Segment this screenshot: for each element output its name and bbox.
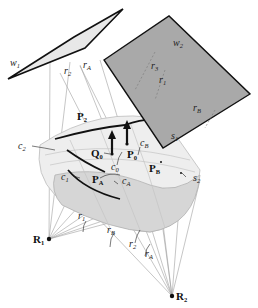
label-P2: P2 [77, 110, 87, 123]
diagram-canvas: w1 r2 rA w2 r3 r1 rB P2 c2 Q0 c0 P0 cB P… [0, 0, 258, 308]
diagram-svg: w1 r2 rA w2 r3 r1 rB P2 c2 Q0 c0 P0 cB P… [0, 0, 258, 308]
label-rA-top: rA [83, 59, 91, 71]
label-rA-bot: rA [145, 248, 153, 260]
label-R1: R1 [33, 233, 44, 246]
point-r2 [170, 294, 174, 298]
label-R2: R2 [176, 290, 187, 303]
point-r1 [47, 237, 51, 241]
label-c2: c2 [18, 140, 26, 152]
label-r2-top: r2 [64, 65, 72, 77]
label-w1: w1 [10, 57, 20, 69]
